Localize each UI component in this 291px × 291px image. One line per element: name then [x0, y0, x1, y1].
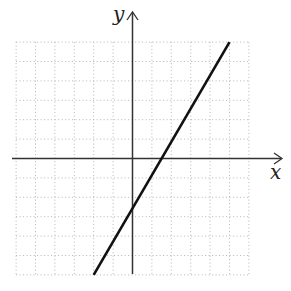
- graph: [0, 0, 291, 291]
- x-axis-label: x: [270, 160, 281, 184]
- y-axis-label: y: [113, 2, 124, 26]
